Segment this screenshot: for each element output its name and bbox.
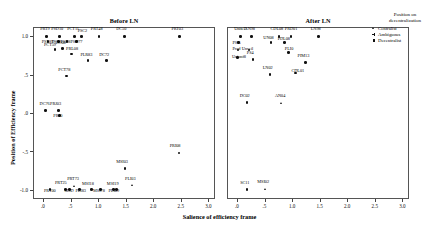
x-tick (153, 199, 154, 202)
x-tick (237, 199, 238, 202)
data-point (290, 35, 293, 38)
data-point-label: PRJ0 (53, 114, 62, 118)
data-point (57, 109, 60, 112)
data-point (250, 35, 253, 38)
x-tick-label: 3.0 (392, 203, 412, 209)
x-tick (71, 199, 72, 202)
legend-item-label: Centralist (378, 26, 397, 31)
data-point (73, 185, 75, 187)
data-point (70, 53, 73, 56)
legend-item-decentralist[interactable]: Decentralist (372, 38, 438, 43)
x-tick (126, 199, 127, 202)
plot-area-after (227, 27, 409, 199)
data-point (178, 35, 181, 38)
data-point-label: PRT9 (40, 27, 50, 31)
y-tick (30, 36, 33, 37)
data-point-label: PLI0 (285, 47, 293, 51)
data-point (317, 35, 320, 38)
data-point-label: UN08 (263, 36, 273, 40)
data-point-label: PRT25 (55, 181, 67, 185)
data-point-label: PRT73 (67, 177, 79, 181)
data-point-label: Unionf8 (232, 55, 246, 59)
x-tick (181, 199, 182, 202)
data-point (123, 35, 126, 38)
x-tick-label: 1.5 (116, 203, 136, 209)
x-tick (347, 199, 348, 202)
x-tick-label: 2.0 (337, 203, 357, 209)
x-tick (292, 199, 293, 202)
x-tick-label: 2.5 (365, 203, 385, 209)
x-tick (208, 199, 209, 202)
x-tick-label: .0 (33, 203, 53, 209)
x-tick (320, 199, 321, 202)
x-tick-label: .0 (227, 203, 247, 209)
data-point-label: MSI18 (82, 182, 94, 186)
y-tick-label: .5 (10, 72, 28, 78)
data-point-label: PSD10 (51, 27, 63, 31)
legend-item-ambiguous[interactable]: Ambiguous (372, 32, 438, 37)
data-point-label: MSD (64, 189, 73, 193)
data-point-label: PIM13 (298, 54, 310, 58)
data-point (239, 35, 242, 38)
data-point (44, 109, 47, 112)
cross-marker-icon (372, 32, 376, 36)
data-point-label: PRT00 (44, 189, 56, 193)
data-point (58, 35, 61, 38)
data-point-label: PSD77 (70, 40, 82, 44)
data-point (280, 102, 282, 104)
data-point (73, 35, 76, 38)
legend-title-line2: decentralization (372, 18, 438, 24)
data-point (252, 58, 255, 61)
figure-container: Position of Efficiency frame Salience of… (0, 0, 439, 236)
x-tick (402, 199, 403, 202)
data-point-label: PLI09 (109, 189, 120, 193)
legend-item-centralist[interactable]: Centralist (372, 26, 438, 31)
data-point-label: PRJ03 (50, 102, 61, 106)
data-point-label: PSI5 (232, 41, 240, 45)
x-tick (98, 199, 99, 202)
data-point-label: DC08 (56, 41, 66, 45)
square-marker-icon (372, 39, 376, 43)
data-point-label: MSI19 (107, 182, 119, 186)
panel-title-before: Before LN (33, 17, 215, 24)
x-tick-label: 1.0 (88, 203, 108, 209)
data-point (131, 184, 133, 186)
x-tick-label: 3.0 (198, 203, 218, 209)
data-point-label: DC50 (116, 27, 126, 31)
data-point (45, 35, 48, 38)
data-point-label: LN98 (311, 27, 321, 31)
data-point-label: DC72 (99, 53, 109, 57)
data-point-label: PDL08 (278, 37, 290, 41)
x-tick-label: 2.5 (171, 203, 191, 209)
legend-items: CentralistAmbiguousDecentralist (372, 26, 438, 43)
data-point (304, 61, 307, 64)
data-point-label: PSC2 (78, 29, 88, 33)
x-tick-label: 1.5 (310, 203, 330, 209)
x-tick-label: 1.0 (282, 203, 302, 209)
data-point-label: SC11 (240, 181, 249, 185)
data-point-label: AN04 (275, 94, 285, 98)
legend-item-label: Ambiguous (378, 32, 400, 37)
data-point-label: PCT59 (44, 43, 56, 47)
y-tick-label: 1.0 (10, 33, 28, 39)
data-point-label: LN02 (263, 66, 273, 70)
data-point-label: PLI03 (125, 177, 136, 181)
x-tick (265, 199, 266, 202)
x-tick (43, 199, 44, 202)
data-point (80, 35, 83, 38)
data-point (105, 59, 108, 62)
y-tick-label: -.5 (10, 149, 28, 155)
data-point-label: PS4 (247, 51, 254, 55)
data-point-label: DC02 (240, 94, 250, 98)
data-point-label: AN98 (245, 27, 255, 31)
legend: Position on decentralization CentralistA… (372, 12, 438, 43)
data-point-label: PLR83 (80, 53, 92, 57)
x-tick (375, 199, 376, 202)
data-point-label: PCT78 (58, 68, 70, 72)
data-point-label: CDL01 (291, 69, 304, 73)
data-point-label: MSI78 (93, 189, 105, 193)
data-point-label: PRD01 (285, 27, 297, 31)
data-point-label: MSI03 (116, 160, 128, 164)
data-point-label: MSI02 (257, 180, 269, 184)
data-point-label: PRT48 (91, 27, 103, 31)
